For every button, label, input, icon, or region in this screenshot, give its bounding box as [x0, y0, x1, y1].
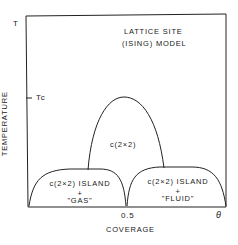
x-tick-mid: 0.5 — [121, 212, 135, 220]
ordered-region-label: c(2×2) — [110, 141, 136, 149]
y-axis-top-label: T — [13, 20, 19, 28]
tc-label: Tc — [36, 94, 46, 102]
y-axis-title: TEMPERATURE — [1, 91, 9, 156]
right-region-line1: c(2×2) ISLAND — [136, 178, 220, 186]
left-region-line1: c(2×2) ISLAND — [40, 180, 120, 188]
phase-diagram — [0, 0, 238, 245]
x-axis-end-label: θ — [216, 211, 222, 220]
model-title-line1: LATTICE SITE — [124, 28, 183, 36]
left-region-line3: "GAS" — [40, 197, 120, 205]
model-title-line2: (ISING) MODEL — [122, 40, 187, 48]
right-region-line3: "FLUID" — [136, 195, 220, 203]
ordered-phase-boundary — [88, 97, 164, 170]
x-axis-title: COVERAGE — [106, 226, 155, 234]
